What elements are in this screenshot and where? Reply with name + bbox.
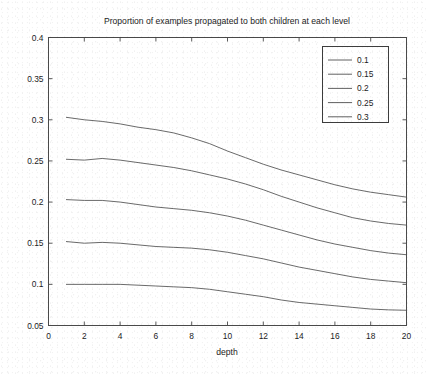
x-tick-label: 4 bbox=[118, 331, 123, 341]
chart-legend: 0.10.150.20.250.3 bbox=[323, 47, 389, 123]
line-chart: Proportion of examples propagated to bot… bbox=[0, 0, 426, 377]
legend-label-0.15: 0.15 bbox=[357, 69, 374, 79]
x-tick-label: 12 bbox=[259, 331, 269, 341]
chart-figure: Proportion of examples propagated to bot… bbox=[0, 0, 426, 377]
y-tick-label: 0.05 bbox=[27, 321, 44, 331]
x-tick-label: 18 bbox=[366, 331, 376, 341]
y-tick-label: 0.25 bbox=[27, 156, 44, 166]
x-tick-label: 16 bbox=[330, 331, 340, 341]
y-tick-label: 0.1 bbox=[32, 279, 44, 289]
chart-title: Proportion of examples propagated to bot… bbox=[104, 16, 350, 26]
x-tick-label: 14 bbox=[294, 331, 304, 341]
y-tick-label: 0.2 bbox=[32, 197, 44, 207]
legend-label-0.3: 0.3 bbox=[357, 112, 369, 122]
x-tick-label: 10 bbox=[223, 331, 233, 341]
x-tick-label: 20 bbox=[402, 331, 412, 341]
legend-label-0.25: 0.25 bbox=[357, 98, 374, 108]
x-axis-label: depth bbox=[216, 347, 238, 357]
y-tick-label: 0.4 bbox=[32, 33, 44, 43]
x-tick-label: 0 bbox=[46, 331, 51, 341]
y-tick-label: 0.35 bbox=[27, 74, 44, 84]
x-tick-label: 8 bbox=[189, 331, 194, 341]
y-tick-label: 0.15 bbox=[27, 238, 44, 248]
legend-label-0.2: 0.2 bbox=[357, 83, 369, 93]
legend-box bbox=[323, 47, 389, 123]
y-tick-label: 0.3 bbox=[32, 115, 44, 125]
legend-label-0.1: 0.1 bbox=[357, 55, 369, 65]
x-tick-label: 6 bbox=[154, 331, 159, 341]
x-tick-label: 2 bbox=[82, 331, 87, 341]
